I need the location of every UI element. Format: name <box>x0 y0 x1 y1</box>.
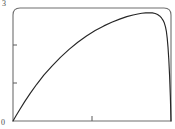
axes-frame <box>13 8 171 121</box>
plot-area <box>0 0 175 129</box>
plot-frame-box <box>13 8 171 121</box>
y-axis-max-label: 3 <box>2 0 6 8</box>
y-axis-min-label: 0 <box>1 119 5 127</box>
data-series-group <box>13 13 171 121</box>
data-curve <box>13 13 171 121</box>
chart-figure: 3 0 <box>0 0 175 129</box>
y-axis-ticks <box>13 45 17 83</box>
